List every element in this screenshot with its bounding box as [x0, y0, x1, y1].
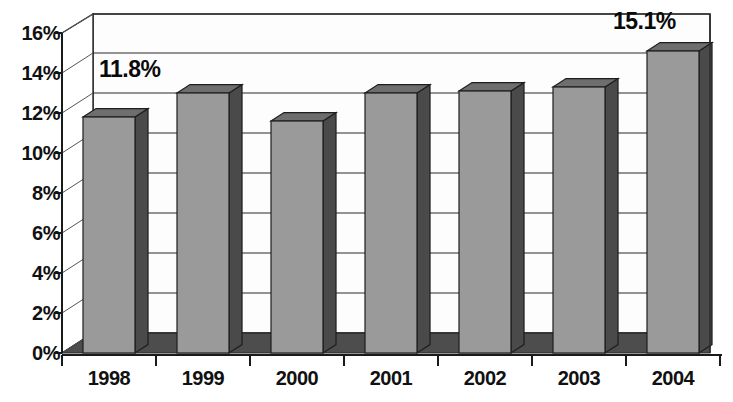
bar-chart: 16% 14% 12% 10% 8% 6% 4% 2% 0% 1998 1999…	[0, 0, 733, 402]
y-tick-label: 8%	[4, 183, 60, 203]
x-axis-labels: 1998 1999 2000 2001 2002 2003 2004	[0, 358, 733, 402]
x-tick-label-2003: 2003	[534, 368, 624, 388]
bar-1999	[177, 85, 242, 353]
bar-1998	[83, 109, 148, 353]
y-tick-label: 10%	[4, 143, 60, 163]
bar-2001	[365, 85, 430, 353]
x-tick-label-2002: 2002	[440, 368, 530, 388]
bar-front-face	[83, 117, 135, 353]
y-axis-labels: 16% 14% 12% 10% 8% 6% 4% 2% 0%	[0, 0, 60, 402]
bar-side-face	[323, 113, 336, 353]
bar-front-face	[271, 121, 323, 353]
x-tick-label-1999: 1999	[158, 368, 248, 388]
bar-2000	[271, 113, 336, 353]
bar-front-face	[647, 51, 699, 353]
x-tick-label-2004: 2004	[628, 368, 718, 388]
y-tick-label: 4%	[4, 263, 60, 283]
data-label-1998: 11.8%	[99, 58, 160, 81]
bar-side-face	[417, 85, 430, 353]
bar-side-face	[135, 109, 148, 353]
y-tick-label: 16%	[4, 23, 60, 43]
bar-front-face	[553, 87, 605, 353]
y-tick-label: 12%	[4, 103, 60, 123]
bar-2003	[553, 79, 618, 353]
bar-side-face	[511, 83, 524, 353]
bar-front-face	[459, 91, 511, 353]
bar-2002	[459, 83, 524, 353]
bar-front-face	[365, 93, 417, 353]
data-label-2004: 15.1%	[613, 10, 676, 33]
y-tick-label: 2%	[4, 303, 60, 323]
y-tick-label: 14%	[4, 63, 60, 83]
bar-2004	[647, 43, 712, 353]
x-tick-label-1998: 1998	[64, 368, 154, 388]
bar-front-face	[177, 93, 229, 353]
x-tick-label-2001: 2001	[346, 368, 436, 388]
y-tick-label: 6%	[4, 223, 60, 243]
bar-side-face	[605, 79, 618, 353]
bar-side-face	[229, 85, 242, 353]
x-tick-label-2000: 2000	[252, 368, 342, 388]
